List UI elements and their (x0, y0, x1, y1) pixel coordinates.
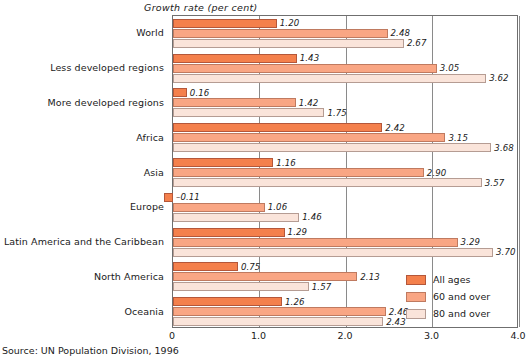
bar (173, 203, 265, 212)
bar (173, 228, 285, 237)
bar-value-label: 1.26 (285, 296, 305, 306)
bar (173, 108, 324, 117)
category-label: Europe (130, 201, 164, 212)
bar-value-label: 2.42 (385, 123, 405, 133)
bar (173, 39, 404, 48)
bar-value-label: 3.68 (494, 143, 514, 153)
bar (173, 262, 238, 271)
bar (173, 143, 491, 152)
bar (173, 64, 437, 73)
bar-row: 2.48 (173, 29, 517, 38)
legend-item: 80 and over (406, 305, 514, 322)
bar (173, 158, 273, 167)
bar-value-label: 3.70 (496, 247, 516, 257)
bar-value-label: 1.42 (299, 98, 319, 108)
legend: All ages 60 and over 80 and over (406, 271, 514, 322)
bar (173, 123, 382, 132)
bar-row: 3.29 (173, 238, 517, 247)
bar (173, 317, 383, 326)
bar (173, 168, 424, 177)
bar-row: 3.62 (173, 74, 517, 83)
bar-value-label: 2.43 (386, 316, 406, 326)
bar (173, 178, 482, 187)
legend-label: 80 and over (433, 308, 490, 319)
bar-row: 1.75 (173, 108, 517, 117)
bar-value-label: 3.57 (485, 177, 505, 187)
source-note: Source: UN Population Division, 1996 (2, 345, 179, 356)
bar (173, 307, 386, 316)
category-label: Africa (136, 131, 164, 142)
bar-value-label: 1.46 (302, 212, 322, 222)
bar-row: 1.06 (173, 203, 517, 212)
bar-value-label: 0.16 (190, 88, 210, 98)
bar-value-label: 1.57 (312, 282, 332, 292)
x-axis-tick-labels: 01.02.03.04.0 (0, 330, 522, 346)
bar-value-label: 0.75 (241, 262, 261, 272)
category-label: Less developed regions (50, 62, 164, 73)
gridline (519, 16, 520, 327)
bar-row: 1.43 (173, 54, 517, 63)
bar-value-label: 1.75 (327, 108, 347, 118)
bar-value-label: 2.48 (391, 28, 411, 38)
bar-value-label: 3.05 (440, 63, 460, 73)
bar-row: 3.57 (173, 178, 517, 187)
bar-row: 1.20 (173, 19, 517, 28)
x-tick-label: 3.0 (424, 330, 439, 341)
category-label: North America (94, 270, 164, 281)
legend-label: 60 and over (433, 291, 490, 302)
bar-value-label: 2.67 (407, 38, 427, 48)
bar (164, 193, 174, 202)
bar (173, 74, 486, 83)
bar-row: 3.05 (173, 64, 517, 73)
bar-value-label: 3.15 (448, 133, 468, 143)
bar-value-label: 1.29 (288, 227, 308, 237)
bar-row: 2.67 (173, 39, 517, 48)
bar-row: 2.42 (173, 123, 517, 132)
bar (173, 213, 299, 222)
bar-row: 1.46 (173, 213, 517, 222)
x-tick-label: 1.0 (251, 330, 266, 341)
x-tick-label: 0 (169, 330, 175, 341)
bar (173, 238, 458, 247)
bar-value-label: –0.11 (176, 192, 200, 202)
bar (173, 88, 187, 97)
legend-item: 60 and over (406, 288, 514, 305)
bar (173, 19, 277, 28)
bar-value-label: 1.43 (300, 53, 320, 63)
category-label: Oceania (124, 305, 164, 316)
legend-item: All ages (406, 271, 514, 288)
category-label-column: WorldLess developed regionsMore develope… (0, 15, 168, 328)
category-label: More developed regions (48, 96, 164, 107)
axis-title: Growth rate (per cent) (144, 2, 258, 13)
bar-value-label: 2.13 (360, 272, 380, 282)
bar (173, 272, 357, 281)
category-label: World (136, 27, 164, 38)
bar-value-label: 1.20 (280, 18, 300, 28)
bar (173, 282, 309, 291)
bar (173, 297, 282, 306)
bar-row: 3.70 (173, 248, 517, 257)
bar-row: 2.90 (173, 168, 517, 177)
bar (173, 133, 445, 142)
bar-value-label: 2.90 (427, 167, 447, 177)
bar-row: 1.29 (173, 228, 517, 237)
category-label: Latin America and the Caribbean (4, 236, 164, 247)
bar-row: 0.75 (173, 262, 517, 271)
legend-label: All ages (433, 274, 470, 285)
bar (173, 54, 297, 63)
bar-row: 1.16 (173, 158, 517, 167)
bar-row: 0.16 (173, 88, 517, 97)
category-label: Asia (144, 166, 164, 177)
bar (173, 248, 493, 257)
x-tick-label: 2.0 (337, 330, 352, 341)
bar-value-label: 1.16 (276, 157, 296, 167)
legend-swatch-all-ages (406, 275, 426, 285)
legend-swatch-80-and-over (406, 309, 426, 319)
bar (173, 29, 388, 38)
bar-value-label: 3.62 (489, 73, 509, 83)
bar-row: 3.15 (173, 133, 517, 142)
bar-value-label: 3.29 (461, 237, 481, 247)
bar-row: 3.68 (173, 143, 517, 152)
x-tick-label: 4.0 (510, 330, 525, 341)
